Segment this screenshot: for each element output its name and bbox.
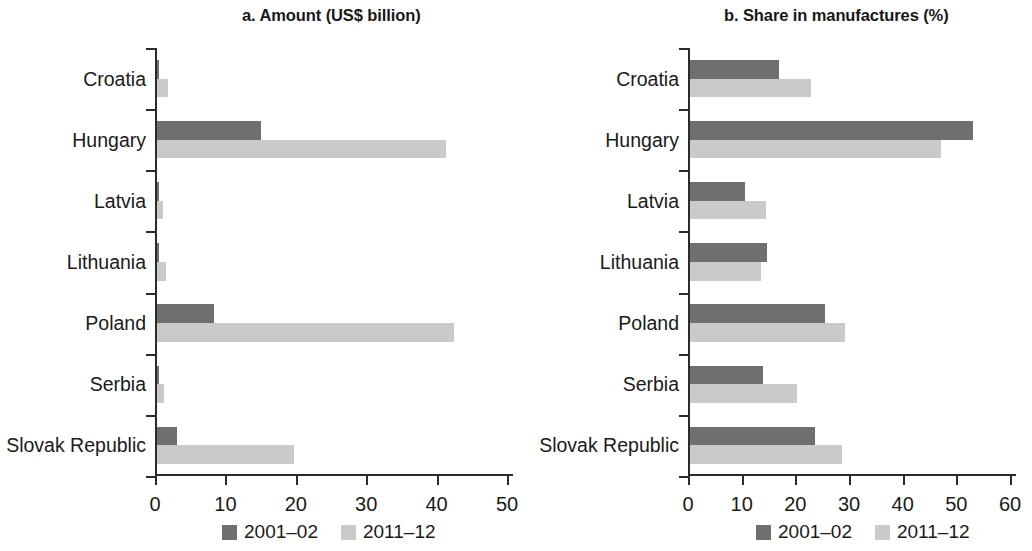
bar-lithuania-2001-02 — [690, 243, 767, 262]
bar-croatia-2001-02 — [157, 60, 159, 79]
category-label: Serbia — [623, 373, 679, 396]
legend-item: 2001–02 — [222, 521, 318, 543]
y-axis-tick — [679, 48, 688, 50]
y-axis-tick — [146, 476, 155, 478]
y-axis-tick — [146, 354, 155, 356]
category-label: Serbia — [90, 373, 146, 396]
bar-hungary-2001-02 — [690, 121, 973, 140]
bar-hungary-2011-12 — [690, 140, 941, 159]
bar-lithuania-2011-12 — [157, 262, 166, 281]
category-label: Croatia — [83, 67, 146, 90]
y-axis-tick — [679, 170, 688, 172]
y-axis-tick — [146, 231, 155, 233]
bar-slovak-republic-2011-12 — [690, 445, 842, 464]
legend-item: 2001–02 — [756, 521, 852, 543]
x-axis-tick-label: 30 — [355, 493, 377, 516]
y-axis-tick — [146, 48, 155, 50]
x-axis-tick-label: 10 — [731, 493, 753, 516]
x-axis-tick-label: 10 — [214, 493, 236, 516]
figure: a. Amount (US$ billion) CroatiaHungaryLa… — [0, 0, 1032, 551]
panel-b-title: b. Share in manufactures (%) — [724, 6, 949, 25]
panel-a-title: a. Amount (US$ billion) — [242, 6, 421, 25]
y-axis-tick — [146, 170, 155, 172]
x-axis-tick-label: 0 — [149, 493, 160, 516]
legend-label: 2001–02 — [244, 521, 318, 543]
x-axis-tick — [507, 476, 509, 485]
bar-slovak-republic-2001-02 — [157, 427, 177, 446]
y-axis-tick — [679, 476, 688, 478]
y-axis-tick — [146, 293, 155, 295]
panel-b-category-labels: CroatiaHungaryLatviaLithuaniaPolandSerbi… — [516, 48, 679, 476]
panel-a-plot-area: 01020304050 — [155, 48, 507, 476]
bar-croatia-2011-12 — [690, 79, 811, 98]
category-label: Latvia — [94, 189, 146, 212]
panel-b-x-axis — [688, 474, 1016, 476]
y-axis-tick — [679, 109, 688, 111]
bar-poland-2011-12 — [690, 323, 845, 342]
bar-latvia-2011-12 — [157, 201, 163, 220]
x-axis-tick — [795, 476, 797, 485]
y-axis-tick — [679, 354, 688, 356]
panel-b-legend: 2001–022011–12 — [756, 521, 970, 543]
y-axis-tick — [679, 415, 688, 417]
legend-label: 2011–12 — [897, 521, 970, 543]
bar-serbia-2001-02 — [690, 366, 763, 385]
panel-a-x-axis — [155, 474, 513, 476]
x-axis-tick-label: 40 — [892, 493, 914, 516]
panel-a: a. Amount (US$ billion) CroatiaHungaryLa… — [0, 0, 516, 551]
category-label: Croatia — [616, 67, 679, 90]
category-label: Hungary — [605, 128, 679, 151]
legend-swatch-icon — [875, 525, 890, 540]
legend-item: 2011–12 — [341, 521, 436, 543]
category-label: Slovak Republic — [539, 434, 679, 457]
bar-hungary-2001-02 — [157, 121, 261, 140]
category-label: Hungary — [72, 128, 146, 151]
bar-latvia-2011-12 — [690, 201, 766, 220]
x-axis-tick — [225, 476, 227, 485]
x-axis-tick-label: 50 — [496, 493, 518, 516]
category-label: Slovak Republic — [6, 434, 146, 457]
legend-label: 2011–12 — [363, 521, 436, 543]
bar-lithuania-2011-12 — [690, 262, 761, 281]
bar-latvia-2001-02 — [157, 182, 159, 201]
category-label: Lithuania — [600, 251, 679, 274]
x-axis-tick — [366, 476, 368, 485]
bar-slovak-republic-2001-02 — [690, 427, 815, 446]
bar-serbia-2001-02 — [157, 366, 159, 385]
x-axis-tick — [1010, 476, 1012, 485]
x-axis-tick — [903, 476, 905, 485]
bar-latvia-2001-02 — [690, 182, 745, 201]
category-label: Poland — [618, 312, 679, 335]
bar-serbia-2011-12 — [690, 384, 797, 403]
x-axis-tick — [688, 476, 690, 485]
legend-swatch-icon — [756, 525, 771, 540]
x-axis-tick — [296, 476, 298, 485]
y-axis-tick — [146, 109, 155, 111]
panel-b: b. Share in manufactures (%) CroatiaHung… — [516, 0, 1032, 551]
legend-item: 2011–12 — [875, 521, 970, 543]
x-axis-tick — [956, 476, 958, 485]
x-axis-tick — [849, 476, 851, 485]
x-axis-tick-label: 0 — [682, 493, 693, 516]
x-axis-tick — [155, 476, 157, 485]
panel-a-category-labels: CroatiaHungaryLatviaLithuaniaPolandSerbi… — [0, 48, 146, 476]
bar-poland-2001-02 — [157, 304, 214, 323]
bar-poland-2001-02 — [690, 304, 825, 323]
panel-a-legend: 2001–022011–12 — [222, 521, 436, 543]
bar-lithuania-2001-02 — [157, 243, 159, 262]
legend-swatch-icon — [222, 525, 237, 540]
category-label: Lithuania — [67, 251, 146, 274]
panel-b-plot-area: 0102030405060 — [688, 48, 1010, 476]
y-axis-tick — [679, 293, 688, 295]
legend-label: 2001–02 — [778, 521, 852, 543]
y-axis-tick — [146, 415, 155, 417]
x-axis-tick-label: 50 — [945, 493, 967, 516]
bar-croatia-2001-02 — [690, 60, 779, 79]
x-axis-tick-label: 60 — [999, 493, 1021, 516]
bar-poland-2011-12 — [157, 323, 454, 342]
x-axis-tick-label: 30 — [838, 493, 860, 516]
x-axis-tick — [437, 476, 439, 485]
x-axis-tick-label: 20 — [784, 493, 806, 516]
category-label: Latvia — [627, 189, 679, 212]
x-axis-tick-label: 40 — [425, 493, 447, 516]
